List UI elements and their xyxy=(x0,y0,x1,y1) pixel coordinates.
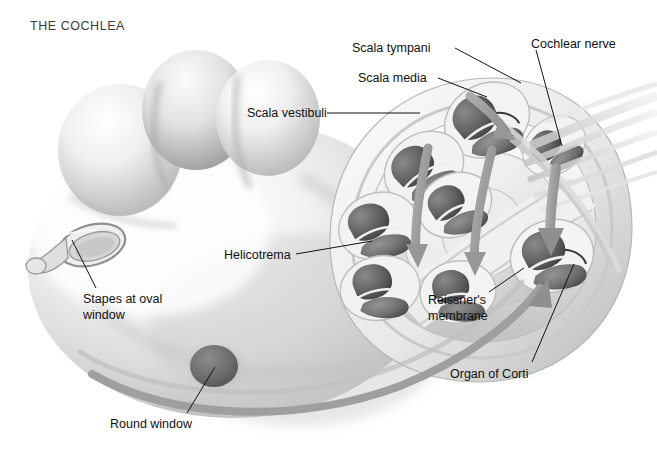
label-scala-media: Scala media xyxy=(358,71,427,87)
flow-arrow-4-shaft xyxy=(550,168,556,236)
figure-title: THE COCHLEA xyxy=(30,19,125,33)
label-cochlear-nerve: Cochlear nerve xyxy=(531,37,616,53)
label-stapes-at-oval-window: Stapes at oval window xyxy=(83,292,162,323)
cochlea-figure: THE COCHLEA Scala tympani Scala media Sc… xyxy=(0,0,657,466)
stapes-head xyxy=(26,258,46,274)
label-helicotrema: Helicotrema xyxy=(224,248,291,264)
round-window-membrane xyxy=(190,345,238,387)
label-round-window: Round window xyxy=(110,417,192,433)
cochlea-illustration xyxy=(0,0,657,466)
label-reissners-membrane: Reissner's membrane xyxy=(428,293,488,324)
label-scala-vestibuli: Scala vestibuli xyxy=(247,106,327,122)
label-organ-of-corti: Organ of Corti xyxy=(450,367,529,383)
label-scala-tympani: Scala tympani xyxy=(352,41,431,57)
